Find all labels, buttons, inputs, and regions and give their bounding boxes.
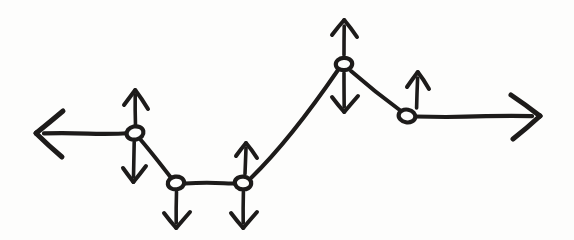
node-4[interactable] [335,57,352,71]
force-up-node-1-head-right [135,90,148,109]
force-down-node-2 [164,192,190,228]
node-2[interactable] [167,176,185,191]
force-down-node-2-head-right [176,212,190,228]
node-group [125,57,416,190]
axis-left-head-lower [36,133,62,157]
force-up-node-5 [407,72,429,108]
force-down-node-3 [231,192,257,228]
force-up-node-1 [124,90,148,126]
axis-right-head [511,95,540,116]
segment-2-3 [185,183,235,184]
axis-left-head [36,111,63,133]
node-1[interactable] [125,125,144,141]
node-5[interactable] [398,108,417,124]
force-down-node-3-head-right [243,212,257,228]
hand-drawn-diagram: Hand-drawn node path with vertical force… [0,0,574,240]
force-up-node-3 [236,143,257,174]
sketch-canvas: Hand-drawn node path with vertical force… [0,0,574,240]
force-up-node-4-head-right [344,20,357,37]
node-path-polyline [140,70,401,184]
force-up-node-5-shaft [417,78,418,108]
axis-right-shaft [415,116,532,117]
force-down-node-4-head-right [344,96,358,112]
segment-4-5 [351,71,401,111]
axis-right-arrow [415,95,540,139]
force-down-node-4 [332,73,358,112]
force-up-node-3-shaft [245,148,246,174]
axis-left-shaft [44,133,132,134]
force-down-node-1 [123,142,146,182]
node-3[interactable] [234,176,252,190]
axis-right-head-lower [513,116,540,139]
segment-3-4 [251,70,338,178]
segment-1-2 [140,139,172,179]
force-up-node-5-head-right [418,72,429,89]
force-down-node-1-shaft [134,142,135,177]
force-up-node-4 [332,20,357,55]
axis-left-arrow [36,111,132,157]
